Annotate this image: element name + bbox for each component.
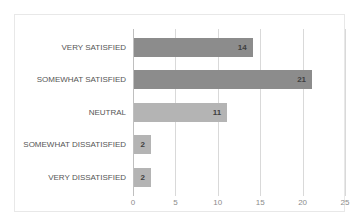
x-tick-label: 5 (173, 198, 177, 207)
bar-value-label: 14 (134, 38, 253, 57)
bar-row: NEUTRAL11 (133, 103, 345, 122)
bar-row: VERY DISSATISFIED2 (133, 168, 345, 187)
bar-value-label: 2 (134, 168, 151, 187)
category-label: VERY SATISFIED (62, 38, 126, 57)
bar-row: SOMEWHAT DISSATISFIED2 (133, 135, 345, 154)
x-tick-label: 15 (256, 198, 265, 207)
plot-area: VERY SATISFIED14SOMEWHAT SATISFIED21NEUT… (133, 29, 345, 196)
x-tick-label: 25 (341, 198, 350, 207)
bar-value-label: 21 (134, 70, 312, 89)
x-tick-label: 20 (298, 198, 307, 207)
category-label: VERY DISSATISFIED (48, 168, 126, 187)
bar-value-label: 2 (134, 135, 151, 154)
x-tick-label: 10 (213, 198, 222, 207)
bars-group: VERY SATISFIED14SOMEWHAT SATISFIED21NEUT… (133, 29, 345, 196)
gridline-25 (345, 29, 346, 196)
category-label: SOMEWHAT SATISFIED (37, 70, 126, 89)
chart-frame: VERY SATISFIED14SOMEWHAT SATISFIED21NEUT… (14, 14, 345, 212)
bar-value-label: 11 (134, 103, 227, 122)
category-label: SOMEWHAT DISSATISFIED (23, 135, 126, 154)
x-tick-label: 0 (131, 198, 135, 207)
category-label: NEUTRAL (89, 103, 126, 122)
bar-row: SOMEWHAT SATISFIED21 (133, 70, 345, 89)
bar-row: VERY SATISFIED14 (133, 38, 345, 57)
